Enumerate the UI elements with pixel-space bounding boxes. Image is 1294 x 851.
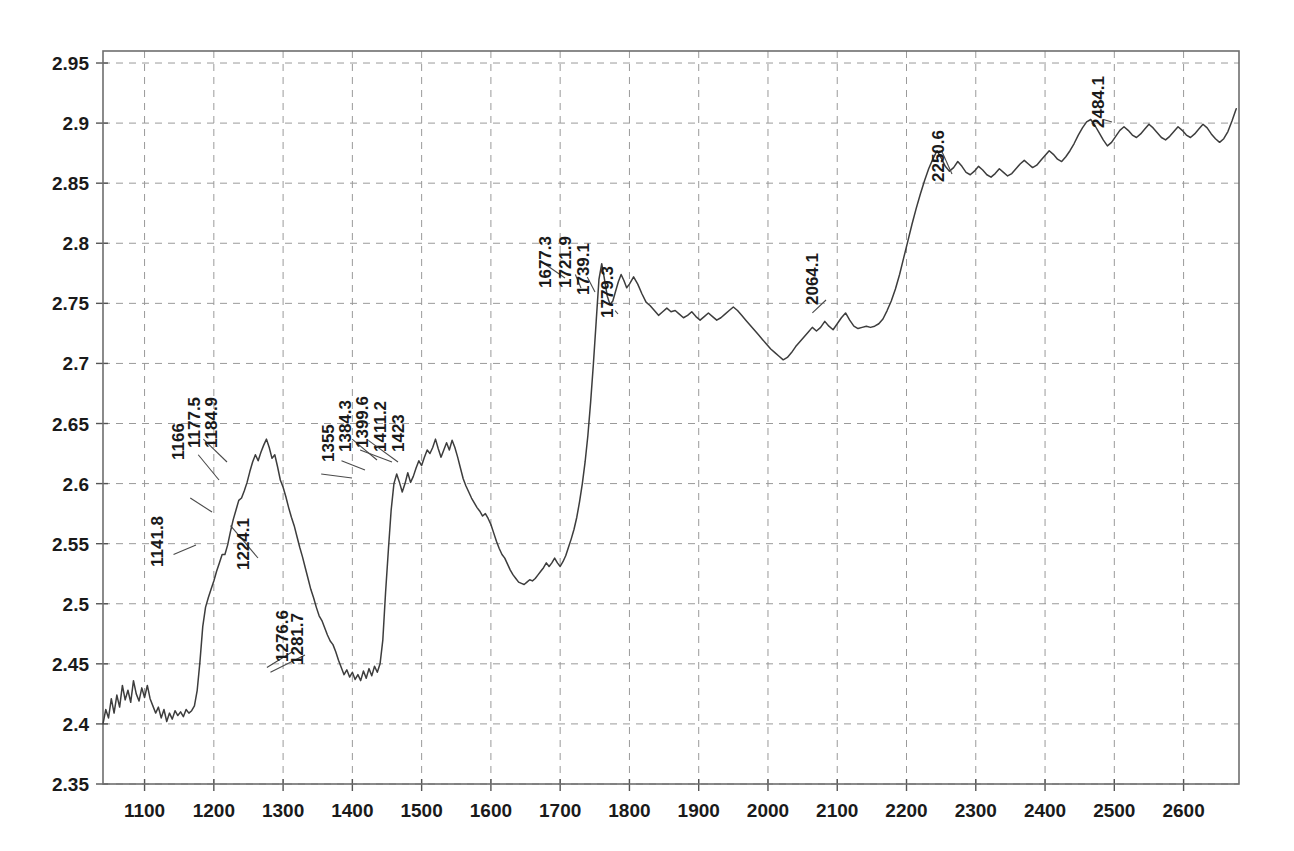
- x-tick-label: 2500: [1093, 800, 1135, 821]
- y-tick-label: 2.75: [52, 293, 89, 314]
- x-tick-label: 1200: [193, 800, 235, 821]
- peak-label: 1721.9: [556, 236, 575, 288]
- peak-label: 2250.6: [929, 130, 948, 182]
- spectrum-chart: 2.352.42.452.52.552.62.652.72.752.82.852…: [0, 0, 1294, 851]
- y-tick-label: 2.7: [63, 353, 89, 374]
- y-tick-label: 2.35: [52, 774, 89, 795]
- peak-label: 1281.7: [288, 613, 307, 665]
- x-tick-label: 2300: [955, 800, 997, 821]
- x-tick-label: 2400: [1024, 800, 1066, 821]
- y-tick-label: 2.85: [52, 173, 89, 194]
- peak-annotation: 1779.3: [598, 266, 618, 318]
- x-tick-label: 1100: [124, 800, 165, 821]
- x-tick-label: 1500: [400, 800, 442, 821]
- peak-label: 1779.3: [598, 266, 617, 318]
- peak-annotation: 1739.1: [574, 243, 595, 295]
- y-tick-label: 2.95: [52, 53, 89, 74]
- peak-label: 1739.1: [574, 243, 593, 295]
- x-tick-label: 1900: [678, 800, 720, 821]
- x-tick-label: 1400: [331, 800, 373, 821]
- y-tick-label: 2.8: [63, 233, 89, 254]
- y-tick-label: 2.5: [63, 594, 90, 615]
- y-tick-label: 2.55: [52, 534, 89, 555]
- peak-label: 1224.1: [234, 518, 253, 570]
- peak-label: 1399.6: [353, 396, 372, 448]
- x-tick-label: 1700: [539, 800, 581, 821]
- y-tick-label: 2.6: [63, 474, 89, 495]
- chart-canvas: 2.352.42.452.52.552.62.652.72.752.82.852…: [0, 0, 1294, 851]
- peak-label: 2484.1: [1089, 76, 1108, 128]
- peak-label: 1141.8: [148, 516, 167, 567]
- x-tick-label: 1800: [608, 800, 650, 821]
- x-tick-label: 2600: [1162, 800, 1204, 821]
- y-tick-label: 2.4: [63, 714, 90, 735]
- x-tick-label: 2100: [816, 800, 858, 821]
- peak-label: 2064.1: [803, 253, 822, 305]
- peak-label: 1184.9: [202, 397, 221, 448]
- x-tick-label: 2200: [885, 800, 927, 821]
- y-tick-label: 2.9: [63, 113, 89, 134]
- x-tick-label: 1600: [470, 800, 512, 821]
- peak-label: 1423: [389, 414, 408, 452]
- x-tick-label: 1300: [262, 800, 304, 821]
- y-tick-label: 2.45: [52, 654, 89, 675]
- x-tick-label: 2000: [747, 800, 789, 821]
- y-tick-label: 2.65: [52, 414, 89, 435]
- peak-label: 1677.3: [536, 236, 555, 288]
